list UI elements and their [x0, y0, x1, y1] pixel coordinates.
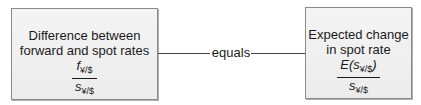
- fraction-numerator: E(s¥/$): [337, 58, 379, 78]
- fraction-denominator: s¥/$: [72, 79, 97, 98]
- forward-spot-difference-box: Difference between forward and spot rate…: [11, 8, 158, 100]
- expected-spot-change-title: Expected change in spot rate: [306, 27, 411, 57]
- fraction-denominator: s¥/$: [337, 78, 379, 97]
- title-line-2: forward and spot rates: [12, 43, 157, 58]
- expectation-operator: E(: [340, 57, 353, 72]
- closing-paren: ): [372, 57, 376, 72]
- fraction-numerator: f¥/$: [72, 59, 97, 79]
- expected-change-over-spot-fraction: E(s¥/$) s¥/$: [337, 58, 379, 97]
- title-line-1: Difference between: [12, 28, 157, 43]
- currency-pair-subscript: ¥/$: [360, 64, 373, 74]
- connector-line-right: [251, 53, 305, 54]
- equals-label: equals: [210, 45, 252, 60]
- currency-pair-subscript: ¥/$: [81, 86, 94, 96]
- title-line-1: Expected change: [306, 27, 411, 42]
- expected-spot-change-box: Expected change in spot rate E(s¥/$) s¥/…: [305, 7, 412, 99]
- currency-pair-subscript: ¥/$: [355, 85, 368, 95]
- currency-pair-subscript: ¥/$: [80, 65, 93, 75]
- connector-line-left: [158, 53, 210, 54]
- title-line-2: in spot rate: [306, 42, 411, 57]
- forward-spot-difference-title: Difference between forward and spot rate…: [12, 28, 157, 58]
- forward-over-spot-fraction: f¥/$ s¥/$: [72, 59, 97, 98]
